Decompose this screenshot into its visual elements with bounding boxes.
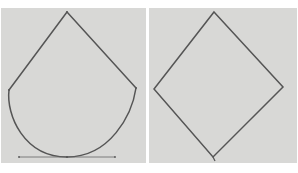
- vertex-top-left: [66, 11, 68, 13]
- vertex-right: [135, 87, 137, 89]
- tangent-point-right: [114, 156, 116, 158]
- diamond-bottom-tick: [213, 157, 215, 161]
- shapes-canvas: [0, 0, 298, 173]
- teardrop-shape: [9, 12, 136, 157]
- tangent-point-center: [66, 156, 68, 158]
- diamond-shape: [154, 12, 283, 157]
- tangent-point-left: [18, 156, 20, 158]
- vertex-left: [8, 89, 10, 91]
